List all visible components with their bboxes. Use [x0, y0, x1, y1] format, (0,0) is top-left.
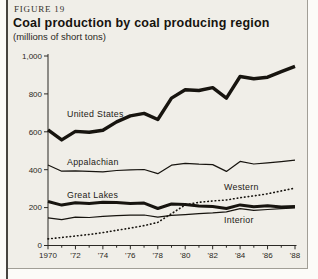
y-tick-label: 1,000 [22, 52, 43, 61]
x-tick-label: '80 [180, 251, 191, 260]
scanned-figure-page: FIGURE 19 Coal production by coal produc… [0, 0, 318, 279]
x-tick-label: '86 [262, 251, 273, 260]
x-tick-label: '76 [125, 251, 136, 260]
x-tick-label: '78 [153, 251, 164, 260]
x-tick-label: '82 [207, 251, 218, 260]
y-tick-label: 600 [29, 128, 43, 137]
series-line-interior [48, 208, 295, 220]
series-label-interior: Interior [224, 215, 254, 225]
y-tick-label: 0 [38, 241, 43, 250]
series-line-united-states [48, 66, 295, 139]
y-tick-label: 200 [29, 203, 43, 212]
x-tick-label: 1970 [39, 251, 57, 260]
y-tick-label: 400 [29, 166, 43, 175]
series-label-united-states: United States [67, 109, 124, 119]
series-label-great-lakes: Great Lakes [67, 190, 119, 200]
y-tick-label: 800 [29, 90, 43, 99]
line-chart: 02004006008001,0001970'72'74'76'78'80'82… [0, 0, 318, 279]
x-tick-label: '88 [290, 251, 301, 260]
x-tick-label: '72 [70, 251, 81, 260]
series-line-great-lakes [48, 202, 295, 209]
x-tick-label: '74 [98, 251, 109, 260]
series-label-appalachian: Appalachian [67, 157, 119, 167]
series-label-western: Western [224, 182, 259, 192]
x-tick-label: '84 [235, 251, 246, 260]
